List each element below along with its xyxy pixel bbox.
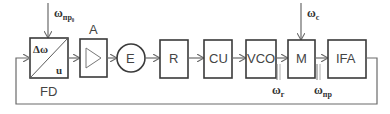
block-diagram: ωпр₀ Δω u FD A E R CU VCO	[0, 0, 390, 114]
fd-delta-omega: Δω	[33, 43, 48, 55]
vco-output-label: ωг	[272, 83, 285, 99]
block-r: R	[160, 40, 188, 78]
svg-text:CU: CU	[209, 51, 228, 66]
svg-text:M: M	[296, 51, 307, 66]
a-label: A	[89, 22, 98, 37]
fd-input-label: ωпр₀	[54, 6, 75, 22]
block-a: A	[80, 22, 107, 77]
block-cu: CU	[204, 40, 232, 78]
fd-label: FD	[40, 84, 57, 99]
block-m: M	[288, 40, 315, 78]
block-fd: Δω u FD	[30, 38, 68, 99]
svg-text:VCO: VCO	[247, 51, 275, 66]
fd-u: u	[56, 64, 62, 76]
block-vco: VCO	[246, 40, 276, 78]
m-output-label: ωпр	[314, 83, 332, 99]
block-ifa: IFA	[328, 40, 366, 78]
m-input-label: ωc	[307, 6, 320, 22]
svg-text:E: E	[126, 51, 135, 66]
svg-text:R: R	[169, 51, 178, 66]
svg-text:IFA: IFA	[336, 51, 356, 66]
block-e: E	[117, 44, 145, 72]
